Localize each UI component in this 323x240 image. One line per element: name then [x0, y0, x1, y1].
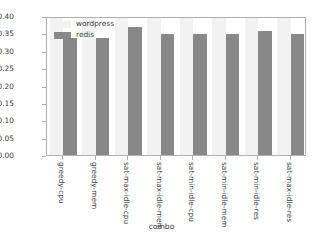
legend-swatch-wordpress-icon: [54, 21, 71, 28]
bar-group: [115, 18, 142, 155]
y-tick-mark: [42, 17, 46, 18]
bar-group: [180, 18, 207, 155]
x-tick-label: greedy-mem: [90, 162, 97, 209]
bar-wordpress-sat-max-idle-mem: [147, 17, 160, 155]
bar-chart-figure: 0.000.050.100.150.200.250.300.350.40 gre…: [0, 0, 323, 240]
x-tick-label: sat-min-idle-res: [253, 162, 260, 220]
bar-redis-sat-min-idle-mem: [226, 34, 239, 155]
y-tick-label: 0.20: [0, 83, 14, 90]
y-tick-mark: [42, 34, 46, 35]
y-tick-mark: [42, 156, 46, 157]
bar-redis-greedy-mem: [96, 38, 109, 155]
x-tick-label: sat-min-idle-cpu: [188, 162, 195, 222]
bar-redis-sat-max-idle-cpu: [128, 27, 141, 155]
bar-group: [277, 18, 304, 155]
y-tick-mark: [42, 52, 46, 53]
x-tick-label: sat-max-idle-cpu: [123, 162, 130, 224]
bar-wordpress-sat-min-idle-res: [245, 17, 258, 155]
bar-wordpress-sat-min-idle-mem: [212, 17, 225, 155]
bar-group: [212, 18, 239, 155]
y-tick-label: 0.30: [0, 48, 14, 55]
bar-wordpress-sat-min-idle-cpu: [180, 17, 193, 155]
legend-label-redis: redis: [76, 31, 94, 38]
y-tick-label: 0.15: [0, 100, 14, 107]
bar-group: [147, 18, 174, 155]
y-tick-label: 0.25: [0, 65, 14, 72]
x-tick-label: sat-min-idle-mem: [220, 162, 227, 228]
x-tick-mark: [192, 156, 193, 160]
y-tick-mark: [42, 69, 46, 70]
x-tick-label: sat-max-idle-res: [285, 162, 292, 222]
y-tick-mark: [42, 104, 46, 105]
bar-redis-greedy-cpu: [63, 38, 76, 155]
y-tick-mark: [42, 87, 46, 88]
legend-swatch-redis-icon: [54, 32, 71, 39]
x-tick-mark: [290, 156, 291, 160]
y-tick-label: 0.10: [0, 118, 14, 125]
x-tick-mark: [257, 156, 258, 160]
y-tick-mark: [42, 121, 46, 122]
bar-redis-sat-max-idle-res: [291, 34, 304, 155]
y-tick-label: 0.00: [0, 152, 14, 159]
x-tick-mark: [225, 156, 226, 160]
x-tick-label: greedy-cpu: [58, 162, 65, 204]
bar-wordpress-sat-max-idle-res: [277, 17, 290, 155]
x-tick-label: sat-max-idle-mem: [155, 162, 162, 230]
x-axis-title: combo: [0, 222, 323, 231]
x-tick-mark: [95, 156, 96, 160]
x-tick-mark: [160, 156, 161, 160]
bar-redis-sat-min-idle-cpu: [193, 34, 206, 155]
chart-legend: wordpress redis: [54, 20, 114, 39]
legend-label-wordpress: wordpress: [76, 20, 114, 27]
y-tick-label: 0.40: [0, 13, 14, 20]
bar-redis-sat-min-idle-res: [258, 31, 271, 155]
bar-group: [245, 18, 272, 155]
x-tick-mark: [127, 156, 128, 160]
y-tick-label: 0.35: [0, 31, 14, 38]
y-tick-mark: [42, 139, 46, 140]
bar-wordpress-sat-max-idle-cpu: [115, 17, 128, 155]
legend-item-redis: redis: [54, 31, 114, 39]
y-tick-label: 0.05: [0, 135, 14, 142]
bar-redis-sat-max-idle-mem: [161, 34, 174, 155]
x-tick-mark: [62, 156, 63, 160]
legend-item-wordpress: wordpress: [54, 20, 114, 28]
